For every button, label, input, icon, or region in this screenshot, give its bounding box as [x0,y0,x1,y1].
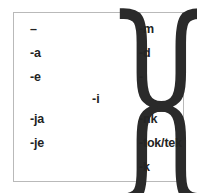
figure-root: – -a -e -ja -je } -i { -m -d - -nk -tok/… [0,0,197,193]
left-affix-item-5: -je [30,137,44,149]
left-affix-item-2: -a [30,47,44,59]
left-affix-item-4: -ja [30,113,44,125]
left-affix-item-3: -e [30,71,44,83]
right-affix-item-6: -k [139,161,182,173]
left-affix-column: – -a -e -ja -je [30,23,44,161]
right-affix-item-1: -m [139,23,182,35]
left-affix-item-1: – [30,23,44,35]
infix-marker-label: -i [92,93,100,106]
right-affix-item-2: -d [139,47,182,59]
right-affix-item-3: - [139,71,182,83]
right-affix-item-5: -tok/tek [139,137,182,149]
right-affix-column: -m -d - -nk -tok/tek -k [139,23,182,185]
right-affix-item-4: -nk [139,113,182,125]
diagram-frame: – -a -e -ja -je } -i { -m -d - -nk -tok/… [13,12,184,182]
